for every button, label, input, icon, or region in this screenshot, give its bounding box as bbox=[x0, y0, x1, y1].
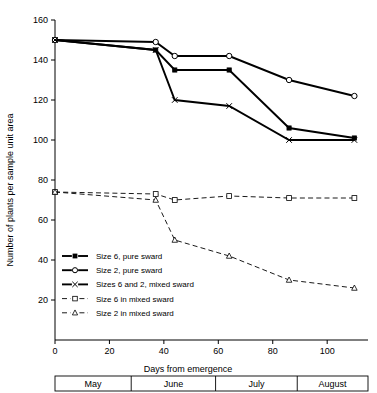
legend-item-3: Size 6 in mixed sward bbox=[62, 295, 174, 304]
data-point-marker-open-square bbox=[153, 192, 158, 197]
y-tick-label: 140 bbox=[33, 55, 48, 65]
y-tick-label: 60 bbox=[38, 215, 48, 225]
data-point-marker-open-triangle bbox=[172, 237, 178, 242]
x-tick-label: 40 bbox=[159, 346, 169, 356]
series-2 bbox=[52, 37, 357, 143]
month-band-label: May bbox=[85, 379, 103, 389]
data-point-marker-open-circle bbox=[172, 53, 177, 58]
series-line bbox=[55, 40, 354, 96]
x-tick-label: 0 bbox=[52, 346, 57, 356]
series-line bbox=[55, 40, 354, 138]
legend-item-0: Size 6, pure sward bbox=[62, 252, 162, 261]
x-axis: 020406080100 bbox=[52, 340, 368, 356]
data-point-marker-open-circle bbox=[153, 39, 158, 44]
series-1 bbox=[52, 37, 357, 98]
y-axis-title: Number of plants per sample unit area bbox=[5, 113, 15, 266]
y-tick-label: 20 bbox=[38, 295, 48, 305]
data-point-marker-open-square bbox=[352, 196, 357, 201]
series-3 bbox=[53, 190, 357, 203]
x-axis-title: Days from emergence bbox=[144, 364, 233, 374]
y-axis: 20406080100120140160 bbox=[33, 15, 55, 340]
legend-label: Size 2 in mixed sward bbox=[96, 309, 174, 318]
legend-item-4: Size 2 in mixed sward bbox=[62, 309, 174, 318]
legend-label: Size 2, pure sward bbox=[96, 266, 162, 275]
data-point-marker-filled-square bbox=[287, 126, 291, 130]
x-tick-label: 80 bbox=[268, 346, 278, 356]
legend-label: Sizes 6 and 2, mixed sward bbox=[96, 280, 194, 289]
data-point-marker-open-square bbox=[287, 196, 292, 201]
y-tick-label: 160 bbox=[33, 15, 48, 25]
data-point-marker-open-circle bbox=[226, 53, 231, 58]
legend-item-1: Size 2, pure sward bbox=[62, 266, 162, 275]
data-point-marker-open-triangle bbox=[72, 310, 77, 315]
data-point-marker-open-circle bbox=[286, 77, 291, 82]
data-point-marker-open-square bbox=[73, 296, 78, 301]
data-point-marker-filled-square bbox=[227, 68, 231, 72]
data-point-marker-open-square bbox=[172, 198, 177, 203]
x-tick-label: 20 bbox=[104, 346, 114, 356]
month-band-axis: MayJuneJulyAugust bbox=[55, 376, 368, 391]
y-tick-label: 120 bbox=[33, 95, 48, 105]
month-band-label: August bbox=[319, 379, 348, 389]
data-point-marker-filled-square bbox=[73, 254, 77, 258]
y-tick-label: 40 bbox=[38, 255, 48, 265]
month-band-label: June bbox=[164, 379, 184, 389]
data-point-marker-open-circle bbox=[352, 93, 357, 98]
y-tick-label: 100 bbox=[33, 135, 48, 145]
data-point-marker-open-circle bbox=[72, 268, 77, 273]
line-chart-canvas: 20406080100120140160 020406080100 Size 6… bbox=[0, 0, 377, 393]
data-point-marker-open-square bbox=[227, 194, 232, 199]
series-line bbox=[55, 40, 354, 140]
y-tick-label: 80 bbox=[38, 175, 48, 185]
chart-legend: Size 6, pure swardSize 2, pure swardSize… bbox=[62, 252, 194, 318]
x-tick-label: 100 bbox=[320, 346, 335, 356]
legend-label: Size 6 in mixed sward bbox=[96, 295, 174, 304]
legend-item-2: Sizes 6 and 2, mixed sward bbox=[62, 280, 194, 289]
series-0 bbox=[53, 38, 357, 140]
x-tick-label: 60 bbox=[213, 346, 223, 356]
month-band-label: July bbox=[248, 379, 265, 389]
data-point-marker-filled-square bbox=[173, 68, 177, 72]
chart-figure: 20406080100120140160 020406080100 Size 6… bbox=[0, 0, 377, 393]
legend-label: Size 6, pure sward bbox=[96, 252, 162, 261]
data-point-marker-cross bbox=[72, 282, 77, 287]
